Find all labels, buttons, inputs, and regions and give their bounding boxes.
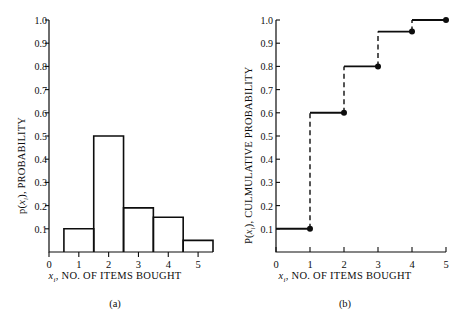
panel-b-y-tick-label: 0.7 <box>249 84 273 95</box>
panel-b-x-tick-label: 4 <box>409 259 414 270</box>
panel-b-x-tick-label: 5 <box>443 259 448 270</box>
panel-a-bars <box>64 136 213 252</box>
panel-a-x-tick-label: 0 <box>46 259 51 270</box>
panel-a-y-tick-label: 0.4 <box>23 154 47 165</box>
panel-a-y-tick-label: 0.1 <box>23 223 47 234</box>
panel-b-x-tick-label: 1 <box>307 259 312 270</box>
panel-a-y-tick-label: 0.3 <box>23 177 47 188</box>
panel-b-y-tick-label: 0.3 <box>249 177 273 188</box>
panel-b-step-treads <box>276 20 446 229</box>
panel-b-y-tick-label: 0.6 <box>249 107 273 118</box>
panel-a-y-tick-label: 0.7 <box>23 84 47 95</box>
panel-a-y-tick-label: 0.8 <box>23 61 47 72</box>
panel-a-x-tick-label: 5 <box>195 259 200 270</box>
panel-b-axis-spines <box>276 20 446 252</box>
panel-b-y-tick-label: 0.2 <box>249 200 273 211</box>
panel-a-y-tick-label: 0.5 <box>23 131 47 142</box>
panel-a-plot-area <box>49 20 213 252</box>
panel-a-x-tick-label: 1 <box>76 259 81 270</box>
panel-a-axis-spines <box>49 20 213 252</box>
panel-b-x-axis-title: xi, NO. OF ITEMS BOUGHT <box>230 270 460 284</box>
panel-b-y-tick-label: 0.9 <box>249 38 273 49</box>
panel-a-y-tick-label: 1.0 <box>23 15 47 26</box>
panel-b-plot-area <box>276 20 446 252</box>
panel-a-probability-histogram: p(xi), PROBABILITY 1.00.90.80.70.60.50.4… <box>0 0 230 326</box>
panel-a-axis-ticks <box>45 20 198 257</box>
panel-b-x-tick-label: 2 <box>341 259 346 270</box>
panel-b-x-tick-label: 3 <box>375 259 380 270</box>
panel-b-caption: (b) <box>230 298 460 309</box>
panel-a-x-tick-label: 4 <box>166 259 171 270</box>
panel-b-y-tick-label: 0.1 <box>249 223 273 234</box>
panel-b-y-tick-label: 0.8 <box>249 61 273 72</box>
panel-a-x-tick-label: 2 <box>106 259 111 270</box>
panel-b-y-tick-label: 1.0 <box>249 15 273 26</box>
panel-a-y-tick-label: 0.6 <box>23 107 47 118</box>
panel-a-y-tick-label: 0.2 <box>23 200 47 211</box>
panel-b-dashed-risers <box>310 20 412 229</box>
panel-a-x-tick-label: 3 <box>136 259 141 270</box>
panel-b-x-tick-label: 0 <box>273 259 278 270</box>
figure-canvas: p(xi), PROBABILITY 1.00.90.80.70.60.50.4… <box>0 0 460 326</box>
panel-a-caption: (a) <box>0 298 230 309</box>
panel-a-x-axis-title: xi, NO. OF ITEMS BOUGHT <box>0 270 230 284</box>
panel-b-axis-ticks <box>276 20 446 252</box>
panel-b-y-tick-label: 0.4 <box>249 154 273 165</box>
panel-a-y-tick-label: 0.9 <box>23 38 47 49</box>
panel-b-cumulative-probability-step: P(xi), CULMULATIVE PROBABILITY 1.00.90.8… <box>230 0 460 326</box>
panel-b-y-tick-label: 0.5 <box>249 131 273 142</box>
